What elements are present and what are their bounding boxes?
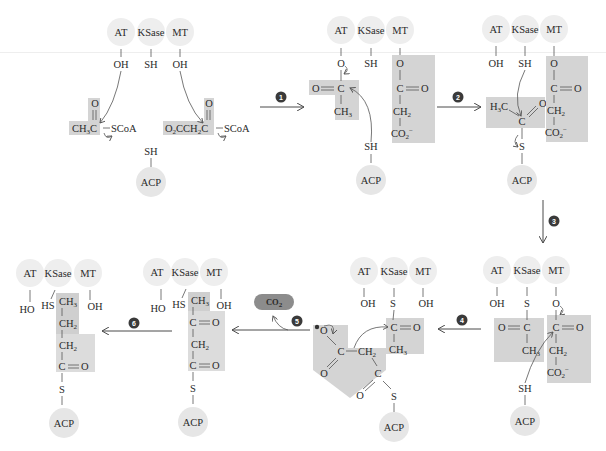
ksase-label: KSase [514, 265, 541, 276]
chain-c1: C [189, 360, 196, 371]
ksase-hs: HS [172, 299, 186, 310]
at-label: AT [24, 268, 37, 279]
chain-c1-o: O [81, 361, 89, 372]
mt-label: MT [546, 24, 562, 35]
mt-label: MT [80, 268, 96, 279]
reaction-diagram: AT KSase MT OH SH OH O CH3C SCoA O O2CCH… [0, 0, 606, 451]
panel-after-step-4: AT KSase MT OH S OH C O CH3 O C CH2 O C [313, 257, 437, 442]
at-label: AT [335, 25, 348, 36]
acp-label: ACP [54, 418, 75, 429]
mt-label: MT [548, 265, 564, 276]
mt-label: MT [206, 267, 222, 278]
at-oh: OH [360, 298, 376, 309]
mt-c: C [550, 83, 557, 94]
carboxyl-o: O [320, 368, 328, 379]
acetyl-o: O [91, 98, 99, 109]
mt-o: O [550, 58, 558, 69]
at-ho: HO [19, 304, 35, 315]
malonyl-scoa: SCoA [224, 123, 250, 134]
mt-oh: OH [418, 298, 434, 309]
step-5-arrow: 5 CO2 [232, 294, 310, 330]
at-label: AT [151, 267, 164, 278]
acyl-o: O [312, 83, 320, 94]
chain-c3-o: O [212, 317, 220, 328]
svg-text:1: 1 [279, 94, 283, 101]
acp-s: S [59, 384, 65, 395]
acp-label: ACP [361, 175, 382, 186]
carboxylate-o: O [320, 325, 328, 336]
mt-label: MT [392, 25, 408, 36]
acyl-o: O [498, 322, 506, 333]
ksase-sh: SH [144, 59, 158, 70]
chain-c3: C [189, 317, 196, 328]
acp-s: S [190, 383, 196, 394]
ksase-sh: SH [364, 58, 378, 69]
mt-oh: OH [87, 301, 103, 312]
panel-after-step-2: AT KSase MT OH SH H3C C O S ACP O C O CH… [482, 15, 588, 195]
chain-c1-o: O [212, 360, 220, 371]
svg-text:6: 6 [132, 320, 136, 327]
co2-byproduct: CO2 [254, 294, 294, 310]
acp-label: ACP [512, 175, 533, 186]
acp-label: ACP [515, 416, 536, 427]
mt-o: O [552, 298, 560, 309]
mt-oh: OH [172, 59, 188, 70]
acp-s: S [391, 391, 397, 402]
acp-label: ACP [183, 417, 204, 428]
at-label: AT [115, 27, 128, 38]
ksase-hs: HS [41, 300, 55, 311]
mt-carbonyl-o: O [574, 83, 582, 94]
acp-label: ACP [141, 177, 162, 188]
carboxyl-c: C [337, 346, 344, 357]
acyl-c: C [523, 322, 530, 333]
svg-text:4: 4 [460, 317, 464, 324]
acp-sh: SH [364, 141, 378, 152]
at-ho: HO [150, 303, 166, 314]
mt-carbonyl-o: O [421, 83, 429, 94]
at-label: AT [358, 266, 371, 277]
acp-sh: SH [144, 146, 158, 157]
svg-text:3: 3 [552, 218, 556, 225]
thioester-o: O [356, 390, 364, 401]
mt-c: C [552, 322, 559, 333]
chain-c1: C [58, 361, 65, 372]
thioester-c: C [374, 368, 381, 379]
malonyl-o: O [205, 98, 213, 109]
ksase-label: KSase [381, 266, 408, 277]
step-2-arrow: 2 [437, 92, 481, 108]
ksase-label: KSase [138, 27, 165, 38]
ksase-s: S [524, 298, 530, 309]
acp-label: ACP [384, 422, 405, 433]
at-o: O [337, 58, 345, 69]
thioester-o: O [539, 98, 547, 109]
mt-c: C [396, 83, 403, 94]
step-4-arrow: 4 [438, 315, 481, 330]
panel-start: AT KSase MT OH SH OH O CH3C SCoA O O2CCH… [69, 18, 250, 197]
panel-after-step-1: AT KSase MT O SH O C CH3 O C O CH2 CO2− … [309, 16, 435, 195]
ksase-label: KSase [358, 25, 385, 36]
acetyl-scoa: SCoA [111, 123, 137, 134]
mt-carbonyl-o: O [576, 322, 584, 333]
acyl-o: O [413, 322, 421, 333]
step-6-arrow: 6 [102, 318, 172, 332]
at-oh: OH [488, 58, 504, 69]
at-label: AT [491, 265, 504, 276]
acyl-c: C [390, 322, 397, 333]
at-oh: OH [113, 59, 129, 70]
mt-oh: OH [216, 300, 232, 311]
svg-text:2: 2 [456, 94, 460, 101]
ksase-label: KSase [512, 24, 539, 35]
panel-after-step-3: AT KSase MT OH S O O C CH3 C O CH2 CO2− … [483, 256, 591, 436]
step-1-arrow: 1 [260, 92, 304, 108]
acp-sh: SH [518, 383, 532, 394]
thioester-c: C [518, 116, 525, 127]
acp-s: S [519, 141, 525, 152]
panel-after-step-5: AT KSase MT HO HS OH CH3 C O CH2 C O S A… [143, 258, 232, 437]
ksase-label: KSase [45, 268, 72, 279]
svg-text:5: 5 [295, 318, 299, 325]
ksase-sh: SH [518, 58, 532, 69]
at-oh: OH [489, 298, 505, 309]
mt-label: MT [172, 27, 188, 38]
acyl-c: C [337, 83, 344, 94]
panel-after-step-6: AT KSase MT HO HS OH CH3 CH2 CH2 C O S A… [16, 259, 103, 438]
